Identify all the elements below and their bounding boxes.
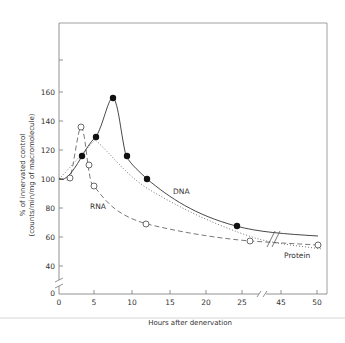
y-ticks	[59, 60, 63, 266]
svg-text:15: 15	[165, 298, 175, 307]
x-tick-labels: 0 5 10 15 20 25 45 50	[57, 298, 322, 307]
protein-label: Protein	[284, 251, 311, 260]
y-axis-title: % of innervated control (counts/min/mg o…	[19, 113, 36, 236]
svg-text:0: 0	[50, 289, 55, 298]
dna-label: DNA	[173, 187, 190, 196]
svg-text:160: 160	[41, 88, 56, 97]
svg-text:(counts/min/mg of macromolecul: (counts/min/mg of macromolecule)	[28, 113, 36, 236]
chart: 0 40 60 80 100 120 140 160 0 5 10 15 20 …	[0, 0, 345, 343]
svg-text:60: 60	[45, 233, 55, 242]
y-tick-labels: 0 40 60 80 100 120 140 160	[41, 88, 56, 298]
svg-text:100: 100	[41, 175, 56, 184]
rna-markers	[67, 124, 321, 248]
dna-curve	[59, 98, 318, 236]
x-ticks	[94, 290, 317, 294]
rna-curve	[59, 127, 318, 245]
svg-text:25: 25	[237, 298, 247, 307]
svg-text:20: 20	[201, 298, 211, 307]
svg-text:10: 10	[127, 298, 137, 307]
svg-text:50: 50	[312, 298, 322, 307]
svg-text:80: 80	[45, 204, 55, 213]
svg-text:5: 5	[92, 298, 97, 307]
rna-label: RNA	[90, 202, 107, 211]
svg-text:45: 45	[276, 298, 286, 307]
x-axis-title: Hours after denervation	[148, 319, 232, 327]
svg-text:0: 0	[57, 298, 62, 307]
svg-text:120: 120	[41, 146, 56, 155]
svg-text:140: 140	[41, 117, 56, 126]
protein-curve	[59, 140, 322, 249]
svg-text:% of innervated control: % of innervated control	[19, 134, 27, 216]
svg-text:40: 40	[45, 262, 55, 271]
